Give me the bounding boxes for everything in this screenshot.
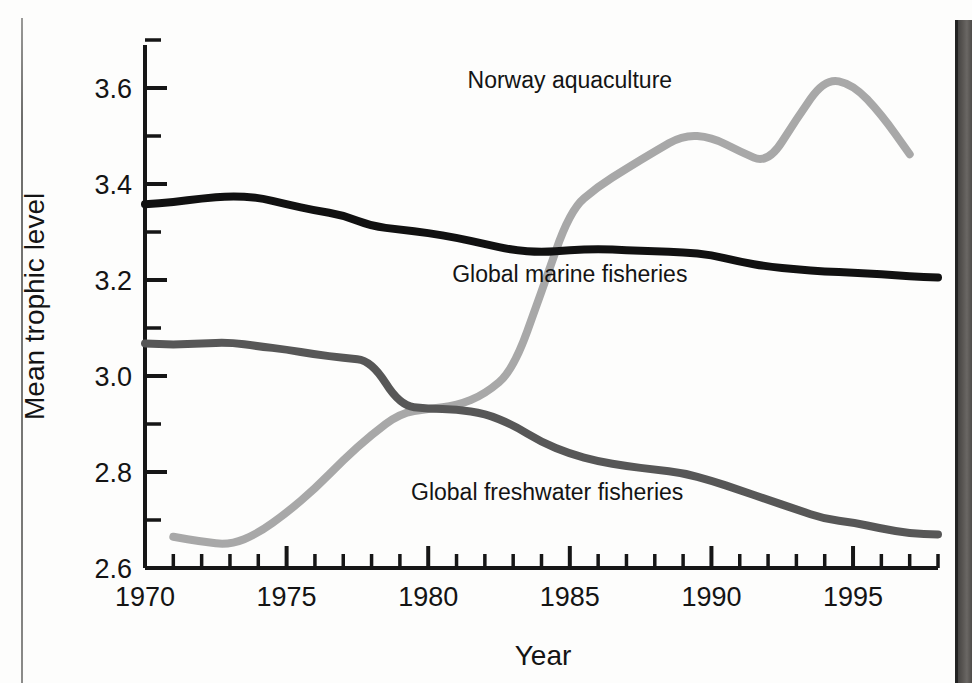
- y-tick-label: 3.4: [94, 170, 132, 200]
- series-line: [173, 81, 909, 544]
- scanned-page: 2.62.83.03.23.43.6 Mean trophic level 19…: [0, 0, 972, 683]
- x-tick-label: 1985: [540, 582, 600, 612]
- x-tick-label: 1975: [257, 582, 317, 612]
- series-line: [145, 343, 938, 535]
- y-axis-title: Mean trophic level: [19, 193, 50, 420]
- y-axis-tick-labels: 2.62.83.03.23.43.6: [94, 74, 132, 584]
- x-tick-label: 1980: [398, 582, 458, 612]
- x-tick-label: 1995: [823, 582, 883, 612]
- x-axis-major-ticks: [145, 546, 853, 568]
- series-label-global-freshwater-fisheries: Global freshwater fisheries: [411, 479, 683, 505]
- x-axis: 197019751980198519901995 Year: [115, 546, 938, 671]
- y-tick-label: 2.8: [94, 458, 132, 488]
- y-tick-label: 3.0: [94, 362, 132, 392]
- series-label-norway-aquaculture: Norway aquaculture: [468, 67, 673, 93]
- y-axis: 2.62.83.03.23.43.6 Mean trophic level: [19, 40, 167, 584]
- y-tick-label: 2.6: [94, 554, 132, 584]
- y-tick-label: 3.6: [94, 74, 132, 104]
- chart-series-group: [145, 81, 938, 544]
- trophic-level-line-chart: 2.62.83.03.23.43.6 Mean trophic level 19…: [0, 0, 972, 683]
- x-tick-label: 1970: [115, 582, 175, 612]
- x-tick-label: 1990: [681, 582, 741, 612]
- x-axis-title: Year: [515, 640, 572, 671]
- series-label-global-marine-fisheries: Global marine fisheries: [452, 261, 687, 287]
- x-axis-tick-labels: 197019751980198519901995: [115, 582, 883, 612]
- y-tick-label: 3.2: [94, 266, 132, 296]
